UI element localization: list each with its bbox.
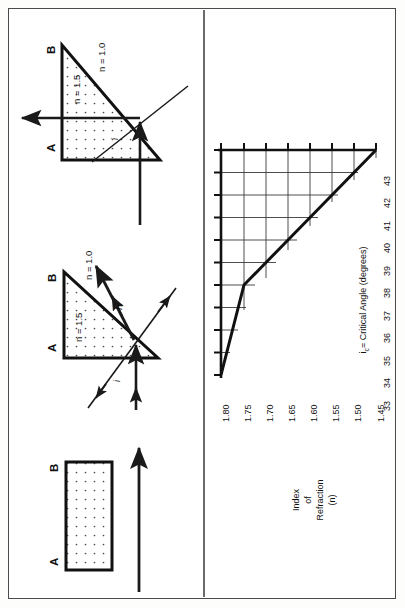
label-angle-i-d2: i xyxy=(112,379,122,382)
y-tick-170: 1.70 xyxy=(265,404,275,422)
y-axis-title-line4: (n) xyxy=(327,494,337,505)
x-tick-39: 39 xyxy=(382,266,392,276)
grid-horizontal xyxy=(244,150,376,310)
label-b-d3: B xyxy=(48,464,60,472)
slab-body xyxy=(66,462,112,570)
y-tick-labels: 1.80 1.75 1.70 1.65 1.60 1.55 1.50 1.45 xyxy=(221,404,386,422)
normal-arrow-lower xyxy=(96,384,106,398)
x-tick-36: 36 xyxy=(382,333,392,343)
x-tick-41: 41 xyxy=(382,221,392,231)
x-axis-title: ic= Critical Angle (degrees) xyxy=(358,247,370,354)
label-n-inside-d2: n = 1.5 xyxy=(73,313,84,342)
label-n-outside-d1: n = 1.0 xyxy=(96,43,107,72)
x-tick-40: 40 xyxy=(382,243,392,253)
x-tick-42: 42 xyxy=(382,198,392,208)
diagram-rectangular-slab: A B xyxy=(48,448,139,592)
label-n-inside-d1: n = 1.5 xyxy=(71,75,82,104)
y-tick-160: 1.60 xyxy=(309,404,319,422)
normal-arrow-upper xyxy=(158,296,170,312)
y-axis-title-line3: Refraction xyxy=(315,479,325,520)
ray-diagrams-svg: A B n = 1.5 n = 1.0 i xyxy=(0,0,204,608)
x-tick-37: 37 xyxy=(382,311,392,321)
diagram-total-internal-reflection: A B n = 1.5 n = 1.0 i xyxy=(22,43,188,225)
label-a-d1: A xyxy=(45,144,57,152)
x-tick-35: 35 xyxy=(382,356,392,366)
ray-diagrams-panel: A B n = 1.5 n = 1.0 i xyxy=(0,0,204,608)
critical-angle-chart-svg: 33 34 35 36 37 38 39 40 41 42 43 1.80 1.… xyxy=(204,0,405,608)
critical-angle-chart-panel: 33 34 35 36 37 38 39 40 41 42 43 1.80 1.… xyxy=(204,0,405,608)
label-n-outside-d2: n = 1.0 xyxy=(83,251,94,280)
y-tick-145: 1.45 xyxy=(376,404,386,422)
x-tick-43: 43 xyxy=(382,176,392,186)
chart-plot-area xyxy=(214,143,376,378)
y-tick-180: 1.80 xyxy=(221,404,231,422)
label-ray-r-d2: R xyxy=(113,303,124,310)
y-axis-title-line2: of xyxy=(303,496,313,504)
x-tick-38: 38 xyxy=(382,288,392,298)
x-axis-title-rest: = Critical Angle (degrees) xyxy=(358,247,368,348)
x-tick-labels: 33 34 35 36 37 38 39 40 41 42 43 xyxy=(382,176,392,411)
diagram-refraction-reflection: A B n = 1.5 n = 1.0 R i xyxy=(46,251,176,410)
y-tick-155: 1.55 xyxy=(331,404,341,422)
label-a-d2: A xyxy=(46,344,58,352)
y-tick-150: 1.50 xyxy=(353,404,363,422)
x-tick-34: 34 xyxy=(382,378,392,388)
x-axis-title-text: ic= Critical Angle (degrees) xyxy=(358,247,370,354)
y-axis-title: Index of Refraction (n) xyxy=(291,479,337,520)
y-tick-175: 1.75 xyxy=(243,404,253,422)
y-axis-title-line1: Index xyxy=(291,488,301,511)
figure-page: A B n = 1.5 n = 1.0 i xyxy=(0,0,405,608)
label-a-d3: A xyxy=(48,558,60,566)
label-b-d2: B xyxy=(46,274,58,282)
y-tick-165: 1.65 xyxy=(287,404,297,422)
label-b-d1: B xyxy=(45,46,57,54)
